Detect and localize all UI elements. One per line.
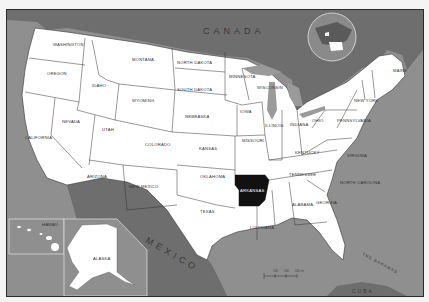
label-montana: MONTANA <box>132 57 154 62</box>
label-new-mexico: NEW MEXICO <box>129 184 159 189</box>
label-arkansas: ARKANSAS <box>240 188 264 193</box>
label-alabama: ALABAMA <box>292 202 313 207</box>
label-kentucky: KENTUCKY <box>295 150 319 155</box>
label-nebraska: NEBRASKA <box>185 114 209 119</box>
label-bahamas: THE BAHAMAS <box>362 251 399 274</box>
label-iowa: IOWA <box>240 109 252 114</box>
label-indiana: INDIANA <box>290 122 308 127</box>
label-louisiana: LOUISIANA <box>250 225 274 230</box>
label-missouri: MISSOURI <box>242 138 264 143</box>
label-north-carolina: NORTH CAROLINA <box>340 180 380 185</box>
label-tennessee: TENNESSEE <box>289 172 316 177</box>
label-maine: MAINE <box>393 68 407 73</box>
label-kansas: KANSAS <box>199 146 217 151</box>
scale-tick-100: 100 <box>273 269 278 273</box>
label-hawaii: HAWAII <box>42 222 58 227</box>
scale-tick-200: 200 <box>284 269 289 273</box>
label-wisconsin: WISCONSIN <box>257 85 283 90</box>
label-alaska: ALASKA <box>93 256 111 261</box>
label-pennsylvania: PENNSYLVANIA <box>337 118 371 123</box>
label-wyoming: WYOMING <box>132 98 154 103</box>
label-cuba: CUBA <box>352 288 374 294</box>
label-illinois: ILLINOIS <box>265 123 284 128</box>
label-california: CALIFORNIA <box>25 135 52 140</box>
map-frame: CANADA MEXICO THE BAHAMAS CUBA WASHINGTO… <box>6 9 424 297</box>
label-south-dakota: SOUTH DAKOTA <box>177 87 212 92</box>
label-north-dakota: NORTH DAKOTA <box>177 60 212 65</box>
label-utah: UTAH <box>102 127 114 132</box>
locator-globe <box>308 13 356 61</box>
label-minnesota: MINNESOTA <box>229 74 255 79</box>
label-georgia: GEORGIA <box>316 200 337 205</box>
label-idaho: IDAHO <box>92 83 107 88</box>
label-oklahoma: OKLAHOMA <box>200 174 225 179</box>
label-new-york: NEW YORK <box>354 98 378 103</box>
scale-tick-300: 300 mi <box>295 269 304 273</box>
label-virginia: VIRGINIA <box>347 153 367 158</box>
label-washington: WASHINGTON <box>53 42 84 47</box>
label-canada: CANADA <box>203 26 265 36</box>
label-ohio: OHIO <box>312 118 324 123</box>
label-colorado: COLORADO <box>145 142 171 147</box>
label-arizona: ARIZONA <box>87 174 107 179</box>
us-map: CANADA MEXICO THE BAHAMAS CUBA WASHINGTO… <box>7 10 423 296</box>
label-texas: TEXAS <box>200 209 215 214</box>
label-nevada: NEVADA <box>62 119 80 124</box>
scale-bar <box>264 273 297 279</box>
label-oregon: OREGON <box>47 71 67 76</box>
